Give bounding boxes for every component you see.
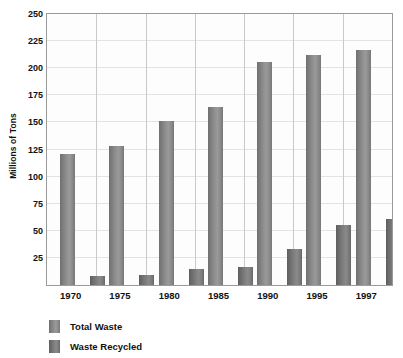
- x-tick-label-1985: 1985: [208, 290, 229, 301]
- x-tick-label-1995: 1995: [306, 290, 327, 301]
- bar-group-1990: [244, 14, 293, 285]
- y-tick-label-175: 175: [1, 91, 43, 100]
- bar-group-1980: [146, 14, 195, 285]
- legend-item-total-waste[interactable]: Total Waste: [49, 318, 142, 335]
- bar-group-1970: [47, 14, 96, 285]
- y-tick-label-125: 125: [1, 145, 43, 154]
- bar-total-waste-1980: [159, 121, 174, 285]
- x-tick-label-1997: 1997: [356, 290, 377, 301]
- bar-group-1975: [96, 14, 145, 285]
- x-tick-label-1980: 1980: [159, 290, 180, 301]
- x-tick-label-1990: 1990: [257, 290, 278, 301]
- y-tick-label-250: 250: [1, 10, 43, 19]
- bar-total-waste-1985: [208, 107, 223, 285]
- plot-area: [46, 13, 393, 286]
- bar-total-waste-1995: [306, 55, 321, 285]
- legend-label: Total Waste: [70, 321, 122, 332]
- y-tick-label-150: 150: [1, 118, 43, 127]
- y-tick-label-100: 100: [1, 172, 43, 181]
- x-tick-label-1970: 1970: [60, 290, 81, 301]
- y-tick-label-25: 25: [1, 253, 43, 262]
- bar-total-waste-1970: [60, 154, 75, 285]
- chart-legend: Total WasteWaste Recycled: [49, 318, 142, 358]
- legend-label: Waste Recycled: [70, 341, 142, 352]
- x-tick-label-1975: 1975: [109, 290, 130, 301]
- bar-group-1995: [293, 14, 342, 285]
- bar-waste-recycled-1997: [386, 219, 393, 285]
- bar-group-1985: [195, 14, 244, 285]
- legend-swatch-icon: [49, 340, 60, 353]
- bar-group-1997: [343, 14, 392, 285]
- y-tick-label-225: 225: [1, 37, 43, 46]
- bar-total-waste-1975: [109, 146, 124, 285]
- legend-item-waste-recycled[interactable]: Waste Recycled: [49, 338, 142, 355]
- bar-total-waste-1990: [257, 62, 272, 285]
- y-tick-label-50: 50: [1, 226, 43, 235]
- waste-bar-chart: Millions of Tons 25507510012515017520022…: [0, 0, 403, 358]
- y-tick-label-200: 200: [1, 64, 43, 73]
- x-axis-tick-labels: 1970197519801985199019951997: [46, 290, 393, 306]
- y-axis-tick-labels: 255075100125150175200225250: [0, 13, 43, 286]
- y-tick-label-75: 75: [1, 199, 43, 208]
- legend-swatch-icon: [49, 320, 60, 333]
- bar-total-waste-1997: [356, 50, 371, 285]
